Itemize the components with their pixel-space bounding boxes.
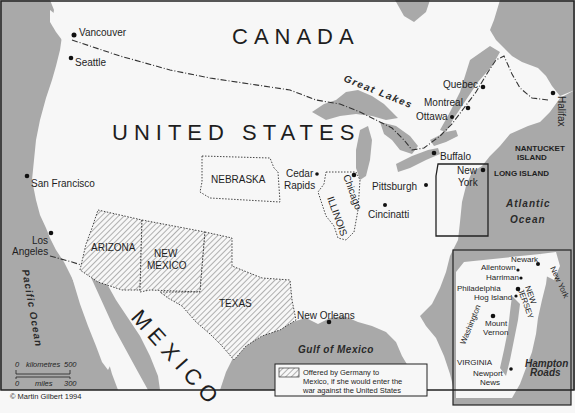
washington-dot <box>491 314 496 319</box>
label-new-mexico-1: NEW <box>154 248 178 259</box>
allentown-dot <box>516 268 519 271</box>
label-pittsburgh: Pittsburgh <box>372 181 417 192</box>
scale-mi-label: miles <box>35 379 53 388</box>
label-united-states: UNITED STATES <box>112 120 360 145</box>
pittsburgh-dot <box>424 183 428 187</box>
label-canada: CANADA <box>232 24 360 49</box>
legend-text-line3: war against the United States <box>302 386 401 395</box>
scale-mi-end: 300 <box>64 379 77 388</box>
label-new-york-2: York <box>458 177 479 188</box>
quebec-dot <box>481 85 486 90</box>
label-atlantic-2: Ocean <box>510 214 546 225</box>
inset-label-harriman: Harriman <box>486 273 519 282</box>
map-svg: Offered by Germany to Mexico, if she wou… <box>0 0 575 413</box>
hog-island-dot <box>514 294 517 297</box>
montreal-dot <box>466 106 471 111</box>
label-cedar-rapids-2: Rapids <box>284 180 315 191</box>
inset-label-newport-news-2: News <box>480 378 500 387</box>
vancouver-dot <box>72 33 77 38</box>
inset-label-mount-vernon-2: Vernon <box>483 328 508 337</box>
label-san-francisco: San Francisco <box>31 178 95 189</box>
label-ottawa: Ottawa <box>416 111 448 122</box>
label-halifax: Halifax <box>556 96 567 127</box>
legend-text-line2: Mexico, if she would enter the <box>303 377 402 386</box>
copyright: © Martin Gilbert 1994 <box>10 392 81 401</box>
legend: Offered by Germany to Mexico, if she wou… <box>275 364 427 396</box>
inset-label-philadelphia: Philadelphia <box>457 284 501 293</box>
label-nebraska: NEBRASKA <box>211 174 266 185</box>
newport-news-dot <box>509 367 513 371</box>
inset-label-virginia: VIRGINIA <box>457 358 493 367</box>
label-long-island: LONG ISLAND <box>494 169 549 178</box>
legend-text-line1: Offered by Germany to <box>303 368 379 377</box>
inset-label-allentown: Allentown <box>481 263 516 272</box>
label-arizona: ARIZONA <box>91 242 136 253</box>
halifax-dot <box>551 91 556 96</box>
label-vancouver: Vancouver <box>79 27 127 38</box>
label-cedar-rapids-1: Cedar <box>286 168 314 179</box>
label-nantucket-2: ISLAND <box>517 153 547 162</box>
buffalo-dot <box>432 151 437 156</box>
label-seattle: Seattle <box>75 57 107 68</box>
legend-hatch-swatch <box>279 368 299 377</box>
label-buffalo: Buffalo <box>440 151 471 162</box>
new-york-dot <box>481 168 486 173</box>
label-los-angeles-2: Angeles <box>12 246 48 257</box>
los-angeles-dot <box>49 231 54 236</box>
ottawa-dot <box>450 115 454 119</box>
label-atlantic-1: Atlantic <box>505 198 551 209</box>
label-new-mexico-2: MEXICO <box>147 260 187 271</box>
label-new-orleans: New Orleans <box>297 310 355 321</box>
label-new-york-1: New <box>457 165 478 176</box>
cincinnati-dot <box>383 203 387 207</box>
seattle-dot <box>69 56 74 61</box>
label-los-angeles-1: Los <box>32 235 48 246</box>
label-quebec: Quebec <box>443 79 478 90</box>
label-montreal: Montreal <box>424 97 463 108</box>
inset-label-hog-island: Hog Island <box>474 293 512 302</box>
scale-km-label: kilometres <box>26 360 60 369</box>
label-nantucket-1: NANTUCKET <box>515 144 565 153</box>
map-container: Offered by Germany to Mexico, if she wou… <box>0 0 575 413</box>
label-texas: TEXAS <box>219 298 252 309</box>
inset-label-mount-vernon-1: Mount <box>485 319 508 328</box>
harriman-dot <box>519 276 522 279</box>
scale-km-end: 500 <box>64 360 77 369</box>
inset-label-hampton-2: Roads <box>530 367 561 378</box>
inset-label-newport-news-1: Newport <box>473 369 504 378</box>
cedar-rapids-dot <box>315 172 319 176</box>
label-gulf-of-mexico: Gulf of Mexico <box>298 344 374 355</box>
label-cincinnati: Cincinatti <box>368 209 409 220</box>
san-francisco-dot <box>25 174 30 179</box>
